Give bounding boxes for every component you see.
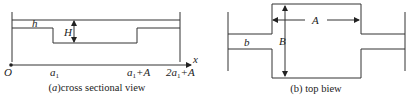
label-H: H bbox=[63, 26, 73, 38]
x-axis-label: x bbox=[192, 53, 198, 65]
label-b: b bbox=[244, 36, 250, 48]
tick-label-a1-plus-A: a1+A bbox=[127, 66, 150, 80]
caption-a: (a)cross sectional view bbox=[49, 82, 146, 94]
caption-b: (b) top biew bbox=[290, 83, 342, 95]
tick-label-a1: a1 bbox=[50, 66, 60, 80]
label-h: h bbox=[32, 17, 38, 29]
label-A: A bbox=[311, 14, 319, 26]
figure-canvas: h H x O a1 a1+A 2a1+A (a)cross sectional… bbox=[0, 0, 414, 99]
tick-label-2a1-plus-A: 2a1+A bbox=[166, 66, 195, 80]
step-profile-line bbox=[12, 28, 180, 43]
channel-bottom-outline bbox=[228, 49, 405, 78]
tick-label-origin: O bbox=[4, 66, 12, 78]
cross-section-diagram: h H x O a1 a1+A 2a1+A (a)cross sectional… bbox=[4, 12, 198, 94]
top-view-diagram: A B b (b) top biew bbox=[228, 4, 405, 95]
label-B: B bbox=[279, 35, 286, 47]
